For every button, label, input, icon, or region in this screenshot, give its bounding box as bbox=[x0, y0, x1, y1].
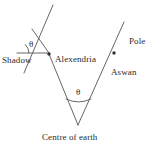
alexandria-label: Alexendria bbox=[55, 55, 96, 64]
eratosthenes-diagram: θ θ Shadow Alexendria Pole Aswan Centre … bbox=[0, 0, 160, 147]
alexandria-radius-line bbox=[49, 54, 78, 125]
centre-of-earth-label: Centre of earth bbox=[42, 133, 97, 142]
aswan-dot bbox=[112, 51, 115, 54]
aswan-label: Aswan bbox=[111, 68, 137, 77]
theta-shadow-label: θ bbox=[29, 40, 33, 49]
theta-centre-arc bbox=[66, 99, 91, 102]
alexandria-dot bbox=[47, 52, 50, 55]
pole-label: Pole bbox=[129, 37, 145, 46]
shadow-label: Shadow bbox=[2, 56, 32, 65]
theta-centre-label: θ bbox=[76, 88, 80, 97]
